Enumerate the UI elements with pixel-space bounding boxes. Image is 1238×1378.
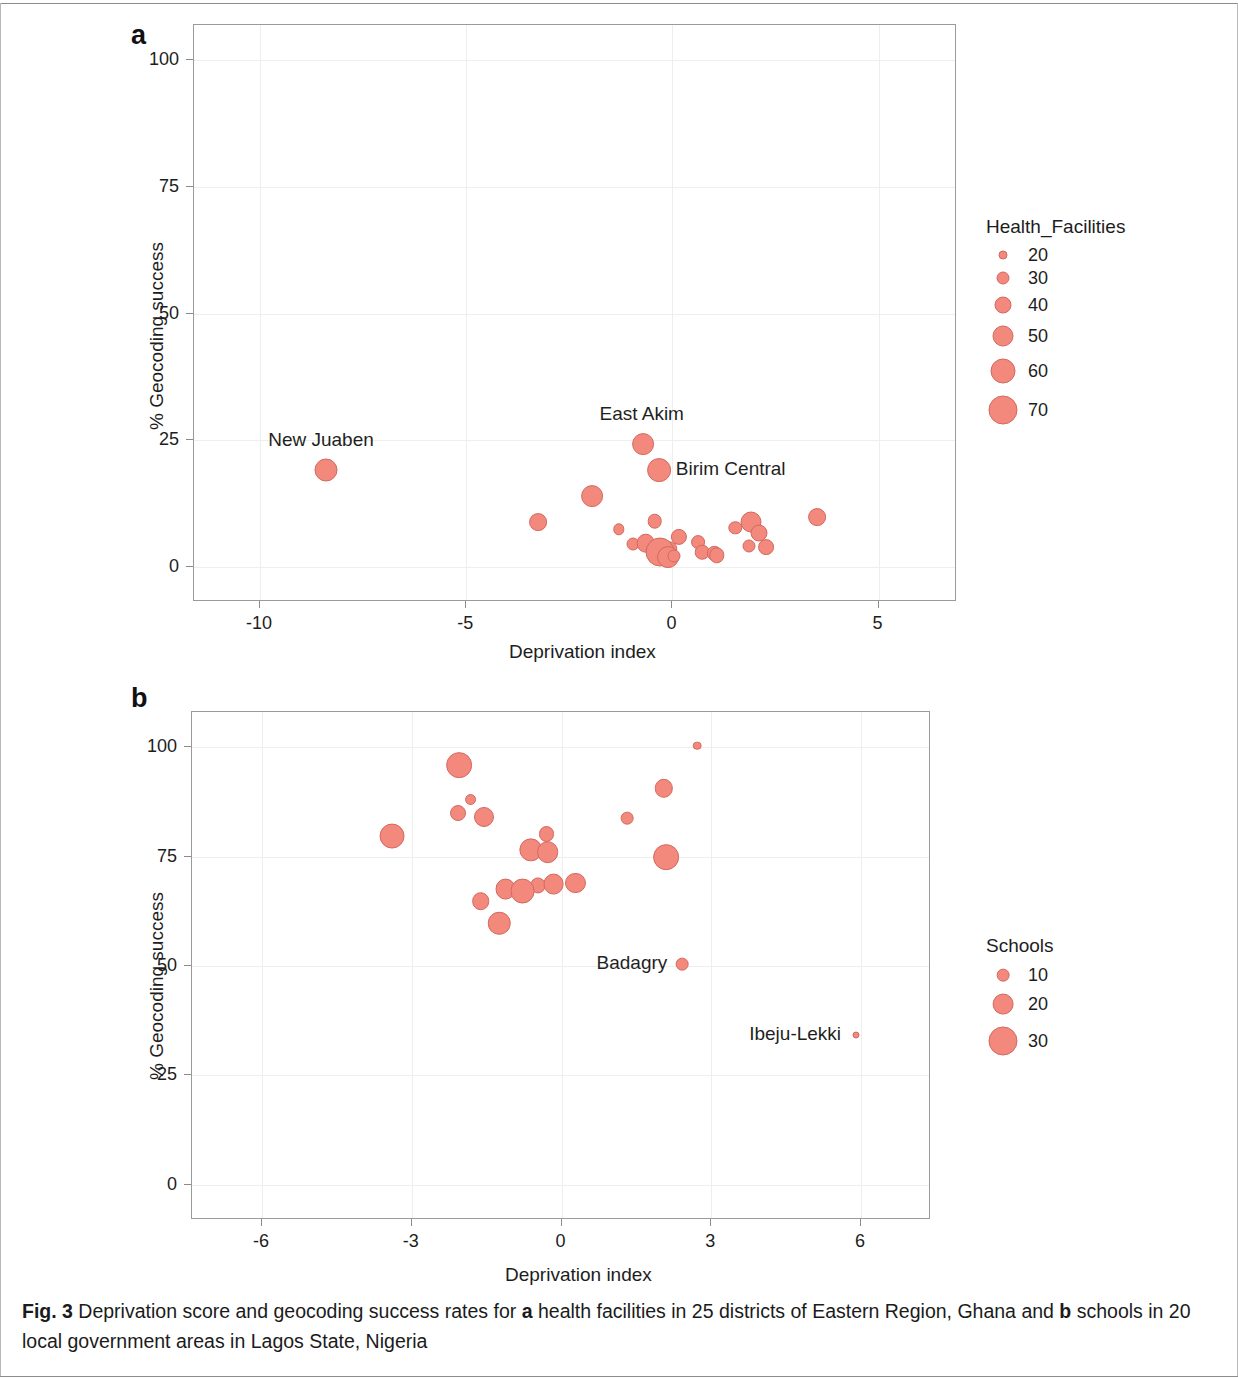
point-annotation-label: Badagry <box>597 952 668 974</box>
legend-row: 60 <box>986 352 1125 389</box>
x-axis-tick-label: 6 <box>855 1231 865 1252</box>
scatter-point <box>446 753 472 779</box>
legend-marker <box>986 357 1020 385</box>
legend-marker-dot <box>989 395 1018 424</box>
gridline-vertical <box>711 712 712 1218</box>
panel-b-plot-area <box>192 712 929 1218</box>
legend-marker <box>986 961 1020 989</box>
y-axis-tick-label: 25 <box>131 429 179 450</box>
scatter-point <box>581 485 603 507</box>
x-axis-tick <box>261 1219 262 1226</box>
legend-row: 20 <box>986 244 1125 265</box>
scatter-point <box>314 459 337 482</box>
gridline-vertical <box>562 712 563 1218</box>
scatter-point <box>808 508 826 526</box>
y-axis-tick-label: 25 <box>129 1064 177 1085</box>
scatter-point <box>759 539 775 555</box>
gridline-vertical <box>879 25 880 600</box>
gridline-vertical <box>672 25 673 600</box>
y-axis-tick <box>184 746 191 747</box>
point-annotation-label: New Juaben <box>268 429 374 451</box>
y-axis-tick <box>184 856 191 857</box>
legend-row: 30 <box>986 1021 1054 1062</box>
legend-marker <box>986 1027 1020 1055</box>
gridline-vertical <box>262 712 263 1218</box>
legend-marker <box>986 291 1020 319</box>
legend-label: 10 <box>1028 965 1048 986</box>
scatter-point <box>474 807 494 827</box>
scatter-point <box>510 878 535 903</box>
x-axis-tick-label: 0 <box>666 613 676 634</box>
x-axis-tick-label: 5 <box>873 613 883 634</box>
scatter-point <box>621 812 634 825</box>
legend-label: 60 <box>1028 360 1048 381</box>
gridline-horizontal <box>194 314 955 315</box>
y-axis-tick <box>186 186 193 187</box>
gridline-horizontal <box>194 567 955 568</box>
scatter-point <box>529 513 547 531</box>
caption-figure-number: Fig. 3 <box>22 1300 73 1322</box>
scatter-point <box>647 514 662 529</box>
gridline-vertical <box>412 712 413 1218</box>
gridline-vertical <box>466 25 467 600</box>
point-annotation-label: East Akim <box>599 403 683 425</box>
scatter-point <box>653 845 679 871</box>
x-axis-tick <box>671 601 672 608</box>
legend-label: 70 <box>1028 399 1048 420</box>
gridline-horizontal <box>192 1185 929 1186</box>
scatter-point <box>465 794 477 806</box>
panel-b-y-axis-title: % Geocoding success <box>146 892 168 1080</box>
scatter-point <box>693 741 702 750</box>
figure-caption: Fig. 3 Deprivation score and geocoding s… <box>22 1296 1212 1356</box>
x-axis-tick <box>710 1219 711 1226</box>
panel-a: a % Geocoding success Deprivation index … <box>0 0 1238 680</box>
panel-b-x-axis-title: Deprivation index <box>505 1264 652 1286</box>
x-axis-tick-label: -3 <box>403 1231 419 1252</box>
legend-marker-dot <box>993 325 1014 346</box>
y-axis-tick <box>184 965 191 966</box>
y-axis-tick-label: 0 <box>131 555 179 576</box>
y-axis-tick <box>186 566 193 567</box>
y-axis-tick-label: 50 <box>131 302 179 323</box>
gridline-vertical <box>861 712 862 1218</box>
point-annotation-label: Ibeju-Lekki <box>749 1023 841 1045</box>
x-axis-tick <box>878 601 879 608</box>
figure-3: a % Geocoding success Deprivation index … <box>0 0 1238 1378</box>
panel-b: b % Geocoding success Deprivation index … <box>0 680 1238 1290</box>
x-axis-tick <box>465 601 466 608</box>
x-axis-tick-label: 0 <box>555 1231 565 1252</box>
legend-marker-dot <box>999 250 1008 259</box>
panel-b-legend-rows: 102030 <box>986 963 1054 1062</box>
x-axis-tick-label: 3 <box>705 1231 715 1252</box>
panel-b-legend: Schools 102030 <box>986 935 1054 1062</box>
scatter-point <box>668 550 681 563</box>
panel-b-legend-title: Schools <box>986 935 1054 957</box>
y-axis-tick-label: 100 <box>131 49 179 70</box>
legend-marker-dot <box>997 271 1010 284</box>
point-annotation-label: Birim Central <box>676 458 786 480</box>
panel-a-legend-rows: 203040506070 <box>986 244 1125 430</box>
legend-marker <box>986 322 1020 350</box>
scatter-point <box>379 824 404 849</box>
legend-row: 20 <box>986 988 1054 1021</box>
scatter-point <box>613 523 624 534</box>
panel-b-plot-frame <box>191 711 930 1219</box>
legend-row: 40 <box>986 290 1125 319</box>
x-axis-tick-label: -5 <box>457 613 473 634</box>
y-axis-tick <box>186 313 193 314</box>
x-axis-tick <box>259 601 260 608</box>
scatter-point <box>450 805 466 821</box>
scatter-point <box>543 874 564 895</box>
legend-label: 30 <box>1028 267 1048 288</box>
x-axis-tick <box>561 1219 562 1226</box>
gridline-horizontal <box>192 857 929 858</box>
legend-marker-dot <box>991 358 1016 383</box>
legend-label: 30 <box>1028 1031 1048 1052</box>
x-axis-tick <box>411 1219 412 1226</box>
scatter-point <box>537 841 559 863</box>
legend-marker-dot <box>989 1027 1018 1056</box>
x-axis-tick-label: -6 <box>253 1231 269 1252</box>
legend-marker <box>986 264 1020 292</box>
y-axis-tick-label: 75 <box>131 175 179 196</box>
scatter-point <box>676 957 689 970</box>
